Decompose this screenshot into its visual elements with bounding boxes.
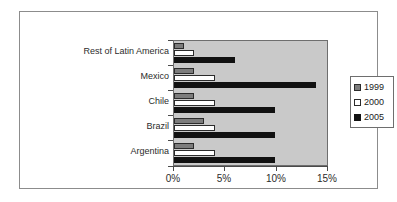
bar-1999: [174, 43, 184, 49]
y-axis-tick-label: Brazil: [19, 121, 169, 131]
x-axis-tick: [327, 166, 328, 171]
y-axis-tick-label: Chile: [19, 96, 169, 106]
x-axis-tick: [224, 166, 225, 171]
bar-2005: [174, 132, 275, 138]
bar-2000: [174, 50, 194, 56]
bar-2005: [174, 107, 275, 113]
y-axis-tick-label: Rest of Latin America: [19, 46, 169, 56]
bar-group-rest-of-latin-america: [174, 41, 327, 66]
bar-2000: [174, 100, 215, 106]
bar-1999: [174, 118, 204, 124]
x-axis-tick-label: 0%: [153, 173, 193, 184]
legend-swatch-icon: [354, 84, 361, 91]
y-axis-tick-label: Argentina: [19, 146, 169, 156]
bar-1999: [174, 143, 194, 149]
y-axis-labels: Rest of Latin America Mexico Chile Brazi…: [20, 40, 169, 166]
plot-area: [173, 40, 328, 166]
legend-label: 2000: [364, 98, 384, 107]
bar-1999: [174, 68, 194, 74]
x-axis-tick: [276, 166, 277, 171]
bar-2005: [174, 82, 316, 88]
legend-item-2005: 2005: [354, 110, 390, 125]
bar-1999: [174, 93, 194, 99]
chart-frame: Rest of Latin America Mexico Chile Brazi…: [19, 11, 378, 189]
y-axis-tick-label: Mexico: [19, 71, 169, 81]
x-axis-line: [173, 166, 328, 167]
x-axis-tick-label: 10%: [256, 173, 296, 184]
chart-legend: 1999 2000 2005: [350, 76, 394, 128]
bar-2005: [174, 157, 275, 163]
legend-label: 1999: [364, 83, 384, 92]
bar-group-chile: [174, 91, 327, 116]
legend-swatch-icon: [354, 114, 361, 121]
bar-2000: [174, 150, 215, 156]
legend-label: 2005: [364, 113, 384, 122]
bar-2000: [174, 75, 215, 81]
bar-group-mexico: [174, 66, 327, 91]
bar-2000: [174, 125, 215, 131]
x-axis-tick-label: 5%: [204, 173, 244, 184]
bar-group-argentina: [174, 141, 327, 166]
legend-item-2000: 2000: [354, 95, 390, 110]
bar-2005: [174, 57, 235, 63]
x-axis-tick-label: 15%: [307, 173, 347, 184]
bar-group-brazil: [174, 116, 327, 141]
legend-item-1999: 1999: [354, 80, 390, 95]
legend-swatch-icon: [354, 99, 361, 106]
x-axis-tick: [173, 166, 174, 171]
